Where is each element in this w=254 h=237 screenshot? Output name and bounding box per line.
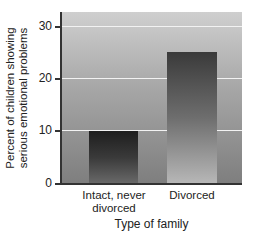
y-axis-label: Percent of children showing serious emot…	[4, 12, 30, 184]
y-tick-0	[55, 183, 60, 185]
bar-divorced	[167, 52, 217, 184]
x-category-intact-line2: divorced	[73, 202, 155, 215]
x-category-divorced: Divorced	[157, 189, 227, 202]
y-tick-10	[55, 130, 60, 132]
y-tick-20	[55, 78, 60, 80]
x-category-intact-line1: Intact, never	[73, 189, 155, 202]
y-axis-label-line1: Percent of children showing	[4, 12, 17, 184]
y-axis	[60, 12, 62, 184]
x-category-intact: Intact, never divorced	[73, 189, 155, 215]
x-category-divorced-line1: Divorced	[157, 189, 227, 202]
y-axis-label-line2: serious emotional problems	[17, 12, 30, 184]
x-axis	[60, 183, 242, 185]
x-axis-label: Type of family	[61, 217, 242, 231]
bar-intact-never-divorced	[89, 131, 138, 184]
y-tick-30	[55, 26, 60, 28]
gridline-30	[61, 26, 242, 27]
